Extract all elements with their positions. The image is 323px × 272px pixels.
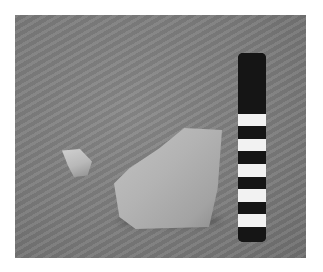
scale-band [238, 202, 266, 214]
scale-band [238, 189, 266, 202]
artifact-photo [15, 15, 306, 258]
scale-band [238, 214, 266, 227]
scale-band [238, 114, 266, 126]
scale-band [238, 177, 266, 189]
scale-band [238, 227, 266, 242]
scale-band [238, 164, 266, 177]
scale-band [238, 151, 266, 164]
large-fragment [114, 128, 222, 229]
scale-bar [238, 53, 266, 242]
scale-band [238, 126, 266, 139]
scale-band [238, 139, 266, 151]
small-fragment [62, 149, 92, 177]
scale-band [238, 53, 266, 114]
